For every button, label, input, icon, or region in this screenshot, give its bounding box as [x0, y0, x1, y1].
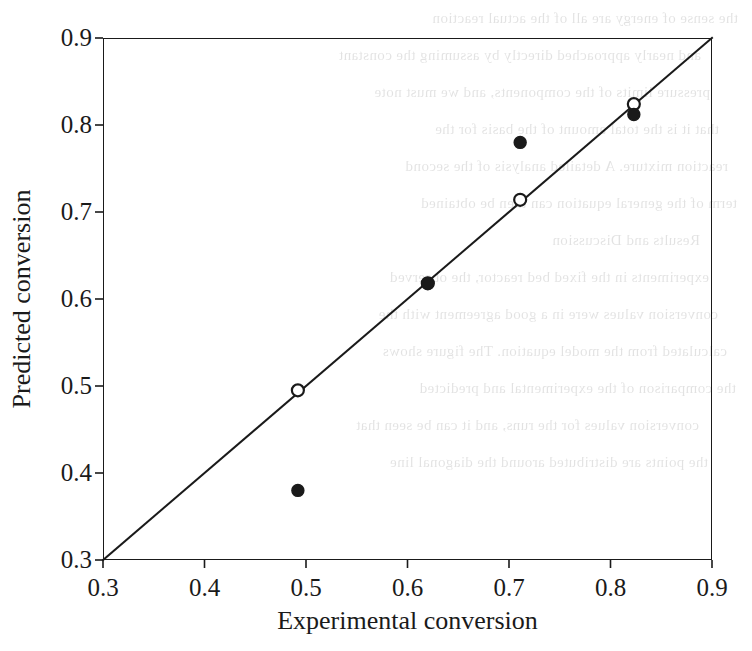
x-tick-label: 0.9 — [696, 574, 727, 602]
x-tick-label: 0.4 — [189, 574, 220, 602]
x-tick-label: 0.8 — [595, 574, 626, 602]
x-tick-label: 0.6 — [392, 574, 423, 602]
x-tick-label: 0.7 — [493, 574, 524, 602]
scatter-plot-figure: the sense of energy are all of the actua… — [0, 0, 752, 651]
y-axis-title-container: Predicted conversion — [0, 38, 44, 560]
y-axis-title: Predicted conversion — [7, 190, 37, 409]
x-axis-title: Experimental conversion — [103, 606, 712, 636]
plot-frame-border — [103, 38, 712, 560]
x-tick-label: 0.5 — [290, 574, 321, 602]
x-tick-label: 0.3 — [87, 574, 118, 602]
